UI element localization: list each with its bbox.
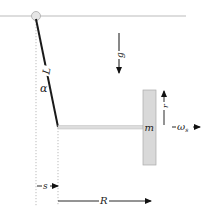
offset-label: r <box>161 102 170 110</box>
mass-label: m <box>145 122 154 133</box>
pivot-offset-label: s <box>43 181 48 191</box>
pendulum-diagram: L α m g r ωs s R <box>0 0 212 222</box>
rod-length-label: L <box>40 65 53 77</box>
svg-text:g: g <box>115 52 125 58</box>
radius-label: R <box>99 195 108 206</box>
horizontal-arm <box>58 126 143 130</box>
gravity-label: g <box>115 51 125 59</box>
angle-label: α <box>40 82 48 95</box>
